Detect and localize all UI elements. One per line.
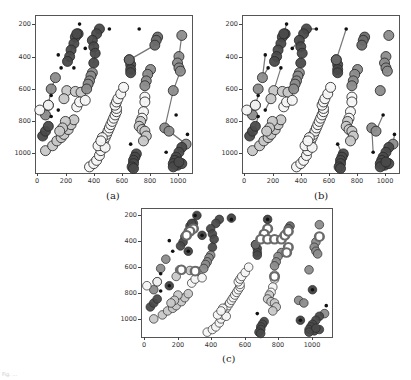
point-dot <box>137 27 141 31</box>
panel-c: 200 400 600 800 1000 0 200 400 600 800 1… <box>106 193 336 343</box>
x-tick: 1000 <box>373 177 397 185</box>
x-tick: 600 <box>110 177 134 185</box>
cluster-marker <box>129 163 139 173</box>
scatter-plot-b <box>242 15 400 174</box>
point-dot <box>324 304 328 308</box>
cluster-marker <box>164 126 174 136</box>
point-dot <box>174 113 178 117</box>
figure-footnote: Fig. ... <box>2 371 17 377</box>
point-dot <box>381 113 385 117</box>
y-tick: 800 <box>9 117 31 125</box>
x-tick: 400 <box>289 177 313 185</box>
point-dot <box>311 288 315 292</box>
y-tick: 600 <box>115 263 137 271</box>
cluster-marker <box>96 136 106 146</box>
point-dot <box>290 47 294 51</box>
cluster-marker <box>333 68 343 78</box>
cluster-marker <box>199 264 208 273</box>
ring-marker <box>284 227 293 236</box>
cluster-marker <box>375 86 385 96</box>
x-tick: 1000 <box>300 341 324 349</box>
cluster-marker <box>270 262 279 271</box>
y-tick: 1000 <box>216 149 238 157</box>
cluster-marker <box>89 58 99 68</box>
point-dot <box>315 27 319 31</box>
cluster-marker <box>46 84 56 94</box>
cluster-marker <box>244 263 253 272</box>
y-tick: 1000 <box>115 315 137 323</box>
cluster-marker <box>312 324 321 333</box>
point-dot <box>159 289 163 293</box>
x-tick: 400 <box>199 341 223 349</box>
cluster-marker <box>138 136 148 146</box>
cluster-marker <box>279 29 289 39</box>
y-tick: 200 <box>9 20 31 28</box>
point-dot <box>266 66 270 70</box>
cluster-marker <box>149 315 158 324</box>
cluster-marker <box>80 95 90 105</box>
cluster-marker <box>336 163 346 173</box>
point-dot <box>164 150 168 154</box>
point-dot <box>59 66 63 70</box>
y-tick: 800 <box>115 289 137 297</box>
cluster-marker <box>300 299 309 308</box>
cluster-marker <box>268 307 277 316</box>
cluster-marker <box>305 266 314 275</box>
y-tick: 200 <box>216 20 238 28</box>
cluster-marker <box>90 48 100 58</box>
cluster-marker <box>43 121 53 131</box>
point-dot <box>266 218 270 222</box>
cluster-marker <box>326 82 336 92</box>
point-dot <box>186 249 190 253</box>
y-tick: 200 <box>115 211 137 219</box>
panel-b: 200 400 600 800 1000 0 200 400 600 800 1… <box>207 0 411 190</box>
cluster-marker <box>175 66 185 76</box>
point-dot <box>83 47 87 51</box>
point-dot <box>263 108 267 112</box>
cluster-marker <box>184 289 193 298</box>
cluster-marker <box>177 30 187 40</box>
cluster-marker <box>347 81 357 91</box>
cluster-marker <box>167 299 176 308</box>
cluster-marker <box>156 264 165 273</box>
y-tick: 1000 <box>9 149 31 157</box>
cluster-marker <box>256 329 265 338</box>
cluster-marker <box>50 73 60 83</box>
x-tick: 800 <box>345 177 369 185</box>
ring-marker <box>282 248 291 257</box>
cluster-marker <box>303 136 313 146</box>
cluster-marker <box>289 84 299 94</box>
x-tick: 1000 <box>166 177 190 185</box>
cluster-marker <box>257 73 267 83</box>
cluster-marker <box>82 84 92 94</box>
point-dot <box>129 142 133 146</box>
cluster-marker <box>168 86 178 96</box>
x-tick: 0 <box>232 177 256 185</box>
x-tick: 200 <box>166 341 190 349</box>
point-dot <box>230 218 234 222</box>
y-tick: 600 <box>216 85 238 93</box>
cluster-marker <box>176 242 185 251</box>
cluster-marker <box>143 281 152 290</box>
point-dot <box>299 318 303 322</box>
cluster-marker <box>250 121 260 131</box>
cluster-marker <box>287 95 297 105</box>
point-dot <box>56 53 60 57</box>
point-dot <box>256 94 260 98</box>
point-dot <box>171 249 175 253</box>
cluster-marker <box>345 136 355 146</box>
x-tick: 200 <box>54 177 78 185</box>
x-tick: 200 <box>261 177 285 185</box>
cluster-marker <box>266 94 276 104</box>
ring-marker <box>177 266 186 275</box>
cluster-marker <box>59 94 69 104</box>
y-tick: 800 <box>216 117 238 125</box>
cluster-marker <box>270 56 280 66</box>
point-dot <box>49 94 53 98</box>
point-dot <box>56 108 60 112</box>
y-tick: 400 <box>9 53 31 61</box>
scatter-plot-c <box>141 208 333 338</box>
caption-c: (c) <box>222 353 235 364</box>
cluster-marker <box>296 58 306 68</box>
y-tick: 600 <box>9 85 31 93</box>
